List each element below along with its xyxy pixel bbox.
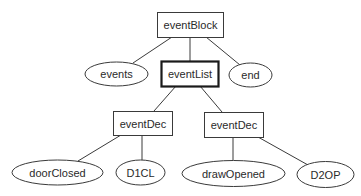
node-end: end — [229, 63, 272, 87]
node-drawOpened: drawOpened — [182, 161, 285, 187]
node-label: events — [100, 68, 133, 80]
edge-eventDec1-doorClosed — [78, 135, 121, 161]
node-label: eventList — [168, 68, 212, 80]
node-eventBlock: eventBlock — [158, 13, 224, 38]
node-label: eventDec — [211, 119, 258, 131]
edge-eventBlock-events — [133, 37, 172, 63]
node-label: doorClosed — [29, 167, 85, 179]
node-eventDec-left: eventDec — [114, 112, 173, 136]
node-label: D2OP — [311, 169, 341, 181]
node-eventList: eventList — [162, 62, 219, 87]
node-D2OP: D2OP — [297, 162, 354, 188]
node-label: end — [241, 69, 259, 81]
tree-diagram: eventBlock events eventList end eventDec… — [0, 0, 361, 196]
node-events: events — [85, 62, 148, 86]
node-label: drawOpened — [202, 168, 265, 180]
node-eventDec-right: eventDec — [205, 113, 264, 138]
node-D1CL: D1CL — [116, 160, 165, 185]
edge-eventList-eventDec2 — [200, 86, 222, 112]
node-doorClosed: doorClosed — [12, 160, 103, 185]
edge-eventList-eventDec1 — [154, 86, 176, 111]
node-label: eventBlock — [164, 19, 218, 31]
edges — [78, 37, 308, 165]
node-label: eventDec — [120, 118, 167, 130]
node-label: D1CL — [126, 167, 154, 179]
edge-eventDec2-D2OP — [258, 137, 308, 165]
